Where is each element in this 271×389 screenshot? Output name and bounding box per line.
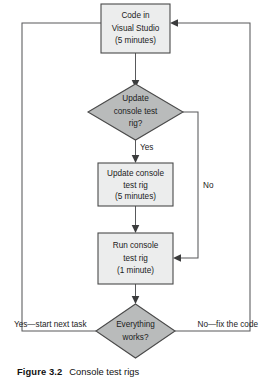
node-works-decision-line-2: works? [122, 333, 149, 342]
edge-label-works-no: No—fix the code [197, 320, 258, 329]
node-works-decision-diamond[interactable] [96, 304, 175, 358]
figure-caption-label: Figure 3.2 [17, 366, 62, 377]
node-code-in-visual-studio[interactable]: Code in Visual Studio (5 minutes) [101, 4, 170, 53]
edge-run-rig-to-works [132, 284, 140, 304]
arrowhead-into-run-rig-right [173, 254, 181, 262]
arrowhead-into-code-right [170, 19, 178, 27]
edge-update-yes [132, 140, 140, 163]
node-works-decision-line-1: Everything [116, 320, 155, 329]
edge-label-works-yes: Yes—start next task [14, 320, 87, 329]
node-update-rig-line-1: Update console [107, 169, 164, 178]
node-works-decision[interactable]: Everything works? [96, 304, 175, 358]
node-update-rig[interactable]: Update console test rig (5 minutes) [98, 163, 173, 206]
node-run-rig-line-3: (1 minute) [117, 266, 154, 275]
node-update-decision[interactable]: Update console test rig? [88, 84, 183, 140]
node-run-rig-line-2: test rig [123, 254, 148, 263]
node-code-line-2: Visual Studio [112, 24, 160, 33]
arrowhead-into-run-rig-top [132, 225, 140, 233]
edge-works-no-to-code [170, 19, 250, 331]
node-run-rig[interactable]: Run console test rig (1 minute) [98, 233, 173, 284]
figure-container: Code in Visual Studio (5 minutes) Update… [0, 0, 271, 389]
edge-label-update-no: No [203, 181, 214, 190]
edge-code-to-update-decision [132, 53, 140, 88]
figure-caption-title: Console test rigs [69, 366, 139, 377]
node-update-rig-line-2: test rig [123, 181, 148, 190]
node-run-rig-line-1: Run console [113, 241, 159, 250]
figure-caption: Figure 3.2Console test rigs [17, 366, 257, 377]
edge-update-no-path [181, 112, 198, 258]
node-code-line-3: (5 minutes) [115, 36, 156, 45]
edge-works-no-path [175, 23, 250, 331]
edge-works-yes-path [22, 23, 101, 331]
edge-update-no-bypass [173, 112, 198, 262]
arrowhead-into-update-rig [132, 155, 140, 163]
node-update-rig-line-3: (5 minutes) [115, 192, 156, 201]
edge-works-yes-to-code [22, 19, 109, 331]
arrowhead-into-works-decision [132, 296, 140, 304]
node-code-line-1: Code in [121, 11, 150, 20]
edge-label-update-yes: Yes [140, 143, 153, 152]
edge-update-rig-to-run-rig [132, 206, 140, 233]
node-update-decision-line-1: Update [122, 94, 149, 103]
node-update-decision-line-2: console test [114, 107, 158, 116]
node-update-decision-line-3: rig? [129, 119, 143, 128]
flowchart-canvas: Code in Visual Studio (5 minutes) Update… [0, 0, 271, 389]
